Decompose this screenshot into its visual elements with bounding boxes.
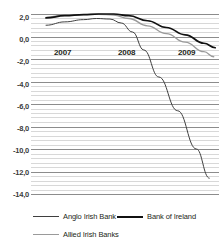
- legend-label: Bank of Ireland: [147, 212, 196, 221]
- y-axis: 2,0 0,0 -2,0 -4,0 -6,0 -8,0 -10,0 -12,0 …: [0, 0, 30, 205]
- plot-area: 2007 2008 2009: [31, 14, 219, 194]
- legend-item-bank-of-ireland: Bank of Ireland: [117, 212, 196, 221]
- y-axis-tick-label: -8,0: [17, 125, 29, 133]
- line-chart: 2,0 0,0 -2,0 -4,0 -6,0 -8,0 -10,0 -12,0 …: [0, 0, 224, 251]
- x-axis-tick-label-2009: 2009: [178, 48, 195, 57]
- legend-label: Anglo Irish Bank: [63, 212, 116, 221]
- y-axis-tick-label: -2,0: [17, 58, 29, 66]
- y-axis-tick-label: -6,0: [17, 103, 29, 111]
- legend: Anglo Irish Bank Bank of Ireland Allied …: [0, 208, 224, 251]
- legend-swatch-line-icon: [33, 216, 59, 217]
- legend-swatch-line-icon: [33, 234, 59, 235]
- legend-swatch-line-icon: [117, 216, 143, 218]
- series-lines: [31, 14, 219, 194]
- y-axis-tick-label: -10,0: [13, 147, 29, 155]
- y-axis-tick-label: 2,0: [19, 14, 29, 22]
- y-axis-tick-label: -12,0: [13, 169, 29, 177]
- y-axis-tick-label: 0,0: [19, 36, 29, 44]
- legend-item-anglo-irish-bank: Anglo Irish Bank: [33, 212, 116, 221]
- y-axis-tick-label: -4,0: [17, 81, 29, 89]
- x-axis-tick-label-2007: 2007: [54, 48, 71, 57]
- y-axis-tick-label: -14,0: [13, 191, 29, 199]
- x-axis-tick-label-2008: 2008: [118, 48, 135, 57]
- gridline-major: [31, 194, 219, 195]
- legend-item-allied-irish-banks: Allied Irish Banks: [33, 230, 119, 239]
- legend-label: Allied Irish Banks: [63, 230, 119, 239]
